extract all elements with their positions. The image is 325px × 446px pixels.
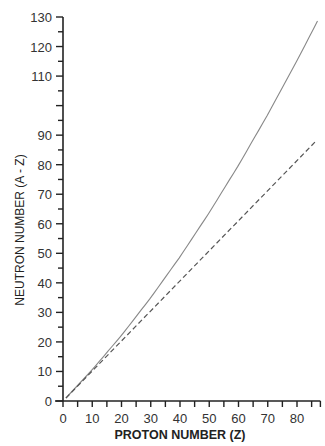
x-tick-label: 80 [290, 411, 304, 426]
x-tick-label: 30 [144, 411, 158, 426]
n-equals-z-line [66, 141, 316, 398]
y-tick-label: 50 [38, 246, 52, 261]
plot-area [66, 21, 318, 398]
x-tick-label: 10 [85, 411, 99, 426]
y-axis: 0102030405060708090110120130 [30, 10, 63, 409]
y-tick-label: 110 [31, 69, 52, 84]
y-tick-label: 10 [38, 364, 52, 379]
x-tick-label: 70 [261, 411, 275, 426]
stability-curve [66, 21, 318, 398]
x-axis-title: PROTON NUMBER (Z) [114, 428, 245, 442]
y-tick-label: 40 [38, 276, 52, 291]
x-tick-label: 50 [202, 411, 216, 426]
x-tick-label: 60 [231, 411, 245, 426]
y-tick-label: 60 [38, 217, 52, 232]
y-tick-label: 20 [38, 335, 52, 350]
y-tick-label: 30 [38, 305, 52, 320]
y-tick-label: 80 [38, 158, 52, 173]
y-tick-label: 0 [45, 394, 52, 409]
y-tick-label: 90 [38, 128, 52, 143]
y-tick-label: 70 [38, 187, 52, 202]
x-tick-label: 0 [59, 411, 66, 426]
chart: 0102030405060708090110120130 01020304050… [0, 0, 325, 446]
y-tick-label: 130 [30, 10, 52, 25]
x-tick-label: 20 [114, 411, 128, 426]
y-axis-title: NEUTRON NUMBER (A - Z) [13, 154, 27, 305]
y-tick-label: 120 [30, 40, 52, 55]
x-tick-label: 40 [173, 411, 187, 426]
x-axis: 01020304050607080 [55, 401, 320, 426]
